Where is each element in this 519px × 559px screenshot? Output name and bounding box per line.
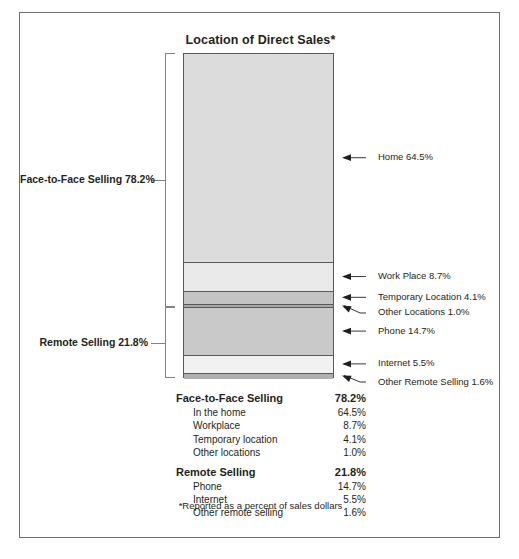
legend-row-name: Other locations — [176, 446, 260, 459]
bar-segment — [184, 374, 333, 379]
chart-frame: Location of Direct Sales* Face-to-Face S… — [19, 12, 500, 538]
legend-row-name: In the home — [176, 406, 246, 419]
callout-label: Other Remote Selling 1.6% — [378, 376, 493, 387]
legend-row-name: Face-to-Face Selling — [176, 390, 283, 406]
bar-segment — [184, 263, 333, 291]
callout-arrowhead — [342, 328, 351, 335]
legend-row-name: Workplace — [176, 419, 240, 432]
group-bracket-tick — [151, 343, 165, 344]
callout-label: Home 64.5% — [378, 151, 433, 162]
callout-arrowhead — [342, 375, 352, 382]
callout-label: Internet 5.5% — [378, 357, 435, 368]
legend-row-value: 1.0% — [322, 446, 366, 459]
callout-arrowhead — [342, 154, 351, 161]
callout-label: Phone 14.7% — [378, 325, 435, 336]
legend-row-name: Remote Selling — [176, 464, 255, 480]
callout-leader — [344, 375, 366, 382]
callout-label: Temporary Location 4.1% — [378, 291, 486, 302]
legend-row: Phone14.7% — [176, 480, 366, 493]
bar-segment — [184, 356, 333, 374]
group-bracket — [165, 53, 175, 307]
callout-arrowhead — [342, 273, 351, 280]
callout-leader — [344, 306, 366, 313]
legend-row-value: 4.1% — [322, 433, 366, 446]
legend-row: In the home64.5% — [176, 406, 366, 419]
legend-row-value: 14.7% — [322, 480, 366, 493]
legend-row: Workplace8.7% — [176, 419, 366, 432]
chart-footnote: *Reported as a percent of sales dollars — [20, 500, 501, 511]
chart-title: Location of Direct Sales* — [20, 33, 501, 47]
callout-arrowhead — [342, 306, 352, 313]
callout-arrowhead — [342, 360, 351, 367]
chart-page: Location of Direct Sales* Face-to-Face S… — [0, 0, 519, 559]
bar-segment — [184, 308, 333, 356]
legend-row: Temporary location4.1% — [176, 433, 366, 446]
group-label: Remote Selling 21.8% — [20, 336, 148, 348]
legend-row-name: Temporary location — [176, 433, 277, 446]
group-label: Face-to-Face Selling 78.2% — [20, 173, 148, 185]
legend-row: Other locations1.0% — [176, 446, 366, 459]
bar-segment — [184, 54, 333, 263]
callout-label: Work Place 8.7% — [378, 270, 451, 281]
legend-row: Face-to-Face Selling78.2% — [176, 390, 366, 406]
callout-arrowhead — [342, 294, 351, 301]
legend-row: Remote Selling21.8% — [176, 460, 366, 480]
legend-row-value: 78.2% — [322, 390, 366, 406]
callout-label: Other Locations 1.0% — [378, 306, 469, 317]
legend-row-value: 8.7% — [322, 419, 366, 432]
legend-row-value: 21.8% — [322, 464, 366, 480]
stacked-bar — [183, 53, 334, 378]
legend-row-value: 64.5% — [322, 406, 366, 419]
bar-segment — [184, 292, 333, 305]
legend-row-name: Phone — [176, 480, 222, 493]
group-bracket — [165, 307, 175, 378]
